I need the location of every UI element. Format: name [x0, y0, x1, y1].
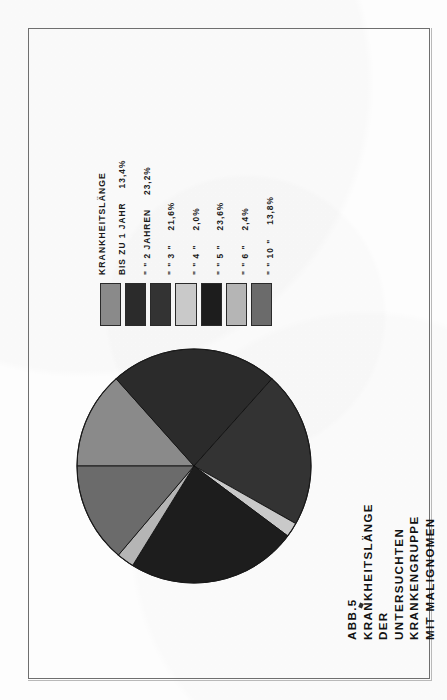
legend-percent-value: 2,0%	[191, 207, 201, 230]
legend-percent-value: 21,6%	[166, 202, 176, 231]
caption-line-1: ABB.5 KRANKHEITSLÄNGE DER UNTERSUCHTEN	[344, 503, 406, 640]
legend-swatch-bar	[226, 283, 247, 326]
legend-category-label: " " 6 "	[240, 244, 250, 275]
legend-row: " " 5 "23,6%	[215, 202, 225, 275]
legend-row: " " 4 "2,0%	[191, 207, 201, 275]
legend-category-label: " " 2 JAHREN	[142, 209, 152, 275]
legend-row: BIS ZU 1 JAHR13,4%	[117, 160, 127, 275]
legend-category-label: " " 4 "	[191, 244, 201, 275]
legend-percent-value: 23,6%	[215, 202, 225, 231]
legend-row: " " 6 "2,4%	[240, 207, 250, 275]
legend-percent-value: 13,8%	[265, 196, 275, 225]
legend-swatch-bar	[175, 283, 196, 326]
pie-chart-svg	[76, 348, 312, 584]
legend-bar-row	[100, 283, 272, 326]
legend-row: " " 10 "13,8%	[265, 196, 275, 275]
legend-category-label: BIS ZU 1 JAHR	[117, 202, 127, 275]
pie-slice-group	[77, 349, 311, 583]
legend-category-label: " " 10 "	[265, 239, 275, 275]
legend-swatch-bar	[251, 283, 272, 326]
legend-percent-value: 2,4%	[240, 207, 250, 230]
legend-swatch-bar	[201, 283, 222, 326]
legend-row: " " 3 "21,6%	[166, 202, 176, 275]
legend-swatch-bar	[150, 283, 171, 326]
caption-line-2: KRANKENGRUPPE MIT MALIGNOMEN	[406, 503, 437, 640]
legend-percent-value: 23,2%	[142, 166, 152, 195]
legend-swatch-bar	[100, 283, 121, 326]
pie-chart	[76, 348, 312, 584]
legend-row: " " 2 JAHREN23,2%	[142, 166, 152, 275]
legend-category-label: " " 5 "	[215, 244, 225, 275]
legend-header: KRANKHEITSLÄNGE	[97, 172, 107, 275]
figure-caption: ABB.5 KRANKHEITSLÄNGE DER UNTERSUCHTEN K…	[344, 503, 437, 640]
legend-percent-value: 13,4%	[117, 160, 127, 189]
legend-category-label: " " 3 "	[166, 244, 176, 275]
scanned-page: KRANKHEITSLÄNGE BIS ZU 1 JAHR13,4% " " 2…	[0, 0, 447, 700]
legend-swatch-bar	[125, 283, 146, 326]
